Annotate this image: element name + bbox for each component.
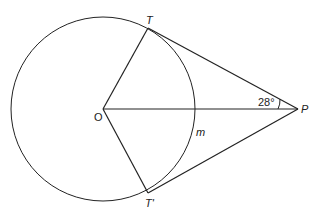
radius-OT: [103, 28, 148, 109]
angle-arc: [278, 99, 280, 109]
tangent-diagram: T T' P O m 28°: [0, 0, 320, 219]
tangent-T-prime-P: [148, 109, 298, 193]
label-T: T: [146, 14, 154, 26]
label-O: O: [94, 111, 103, 123]
label-angle: 28°: [258, 96, 275, 108]
label-m: m: [196, 126, 205, 138]
radius-OT-prime: [103, 109, 148, 193]
tangent-TP: [148, 28, 298, 109]
label-P: P: [301, 103, 309, 115]
label-T-prime: T': [145, 197, 155, 209]
